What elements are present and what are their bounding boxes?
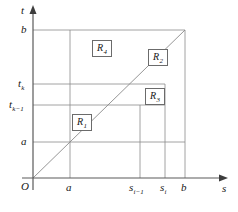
y-tick-label-a: a [21, 136, 27, 147]
x-tick-label-b: b [181, 182, 187, 193]
vertical-gridlines [70, 30, 185, 178]
diagram-vector-layer [0, 0, 238, 212]
region-label-r2: R2 [148, 49, 168, 66]
region-label-r4: R4 [92, 40, 112, 57]
diagram-canvas: t O s b tk tk−1 a a si−1 si b R4 R2 R3 R… [0, 0, 238, 212]
y-tick-label-b: b [21, 24, 27, 35]
x-tick-label-s-i-minus-1: si−1 [129, 182, 143, 193]
region-label-r3: R3 [145, 88, 165, 105]
region-label-r1: R1 [72, 114, 92, 131]
y-tick-label-t-k: tk [18, 78, 24, 89]
x-axis-label: s [222, 183, 226, 194]
y-tick-label-t-k-minus-1: tk−1 [9, 99, 23, 110]
y-axis-label: t [21, 5, 24, 16]
x-axis-arrowhead [219, 175, 228, 182]
y-axis-arrowhead [30, 5, 37, 14]
x-tick-label-a: a [66, 182, 72, 193]
x-tick-label-s-i: si [160, 182, 166, 193]
origin-label: O [21, 181, 29, 192]
